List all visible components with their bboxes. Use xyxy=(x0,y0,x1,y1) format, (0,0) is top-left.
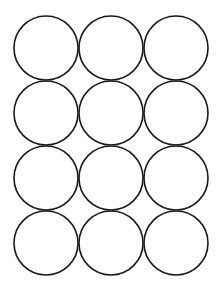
circle-r2-c2 xyxy=(79,81,143,145)
circle-r4-c1 xyxy=(14,211,78,275)
circle-r4-c2 xyxy=(79,211,143,275)
circle-r1-c3 xyxy=(144,16,208,80)
circle-grid xyxy=(0,0,224,291)
circle-r4-c3 xyxy=(144,211,208,275)
circle-r3-c3 xyxy=(144,146,208,210)
circle-r3-c2 xyxy=(79,146,143,210)
circle-r1-c2 xyxy=(79,16,143,80)
circle-r2-c3 xyxy=(144,81,208,145)
circle-r2-c1 xyxy=(14,81,78,145)
circle-r1-c1 xyxy=(14,16,78,80)
circle-r3-c1 xyxy=(14,146,78,210)
